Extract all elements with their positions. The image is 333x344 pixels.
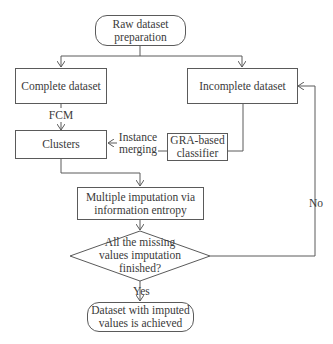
connector-lines: [0, 0, 333, 344]
node-raw-line1: Raw dataset: [113, 18, 169, 30]
edge-clusters-imputation: [61, 159, 140, 186]
end-line1: Dataset with imputed: [91, 304, 189, 316]
decision-line1: All the missing: [105, 236, 175, 248]
edge-incomplete-classifier: [228, 104, 243, 151]
node-complete-text: Complete dataset: [21, 80, 101, 93]
edge-label-no: No: [309, 197, 323, 209]
imputation-line2: information entropy: [94, 204, 186, 216]
edge-decision-incomplete: [210, 86, 315, 256]
node-multiple-imputation: Multiple imputation via information entr…: [77, 187, 204, 220]
node-raw-dataset-preparation: Raw dataset preparation: [95, 15, 186, 46]
decision-line2: values imputation: [99, 249, 181, 261]
edge-label-fcm: FCM: [46, 109, 76, 121]
merge-line1: Instance: [119, 131, 157, 143]
node-incomplete-text: Incomplete dataset: [199, 80, 286, 93]
node-gra-classifier: GRA-based classifier: [167, 133, 228, 161]
edge-label-yes: Yes: [133, 285, 149, 297]
decision-text: All the missing values imputation finish…: [95, 236, 185, 275]
node-final-dataset: Dataset with imputed values is achieved: [87, 302, 194, 332]
node-clusters-text: Clusters: [42, 138, 80, 151]
classifier-line1: GRA-based: [170, 134, 224, 146]
node-complete-dataset: Complete dataset: [15, 68, 107, 104]
node-incomplete-dataset: Incomplete dataset: [187, 68, 298, 104]
imputation-line1: Multiple imputation via: [86, 191, 195, 203]
end-line2: values is achieved: [99, 317, 183, 329]
merge-line2: merging: [119, 143, 157, 155]
decision-line3: finished?: [119, 262, 161, 274]
node-raw-line2: preparation: [114, 31, 166, 43]
node-clusters: Clusters: [15, 130, 107, 159]
classifier-line2: classifier: [177, 147, 219, 159]
edge-label-instance-merging: Instance merging: [118, 131, 158, 155]
